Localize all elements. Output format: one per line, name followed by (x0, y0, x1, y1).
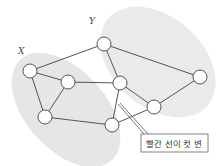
set-labels: X Y (17, 16, 96, 56)
node-a (23, 64, 37, 78)
node-c (38, 110, 52, 124)
node-f (193, 70, 207, 84)
callout-text: 빨간 선이 컷 변 (146, 139, 202, 149)
callout-pointer-line (118, 104, 144, 134)
node-g (147, 100, 161, 114)
callout-pointer-line-2 (120, 103, 148, 134)
set-label-y: Y (89, 16, 96, 26)
graph-cut-diagram: X Y 빨간 선이 컷 변 (0, 0, 221, 166)
set-label-x: X (17, 46, 25, 56)
node-b (61, 75, 75, 89)
node-d (97, 37, 111, 51)
node-h (105, 118, 119, 132)
node-e (113, 76, 127, 90)
